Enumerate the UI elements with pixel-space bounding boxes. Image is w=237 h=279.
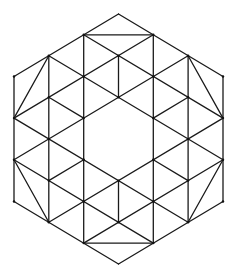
hexagon-lattice-diagram: [0, 0, 237, 279]
lattice-segment: [14, 56, 49, 118]
lattice-vertex: [187, 221, 189, 223]
lattice-vertex: [152, 75, 154, 77]
lattice-vertex: [48, 221, 50, 223]
lattice-vertex: [48, 179, 50, 181]
lattice-vertex: [83, 117, 85, 119]
lattice-segment: [49, 97, 84, 118]
lattice-vertex: [48, 96, 50, 98]
lattice-edges: [14, 14, 223, 264]
lattice-vertex: [117, 96, 119, 98]
lattice-segment: [188, 160, 223, 223]
lattice-vertex: [187, 179, 189, 181]
lattice-vertex: [13, 75, 15, 77]
lattice-vertex: [13, 159, 15, 161]
lattice-vertex: [152, 242, 154, 244]
lattice-vertex: [152, 159, 154, 161]
lattice-vertex: [48, 138, 50, 140]
lattice-vertex: [222, 75, 224, 77]
lattice-segment: [153, 97, 188, 118]
lattice-vertex: [13, 117, 15, 119]
lattice-segment: [14, 160, 49, 223]
lattice-segment: [49, 160, 84, 181]
lattice-vertex: [83, 242, 85, 244]
lattice-vertex: [117, 221, 119, 223]
lattice-segment: [153, 160, 188, 181]
lattice-vertex: [48, 55, 50, 57]
lattice-vertex: [187, 55, 189, 57]
lattice-vertex: [83, 75, 85, 77]
lattice-vertex: [152, 200, 154, 202]
lattice-vertex: [152, 117, 154, 119]
lattice-vertex: [222, 200, 224, 202]
lattice-vertex: [83, 34, 85, 36]
lattice-vertex: [222, 159, 224, 161]
lattice-vertex: [187, 96, 189, 98]
lattice-vertex: [222, 117, 224, 119]
lattice-vertex: [152, 34, 154, 36]
lattice-segment: [119, 202, 224, 265]
lattice-vertex: [83, 200, 85, 202]
lattice-vertex: [117, 55, 119, 57]
lattice-vertex: [117, 179, 119, 181]
lattice-vertex: [187, 138, 189, 140]
lattice-segment: [119, 14, 224, 77]
lattice-segment: [188, 56, 223, 118]
lattice-vertex: [13, 200, 15, 202]
lattice-vertex: [83, 159, 85, 161]
lattice-segment: [14, 14, 119, 77]
lattice-segment: [14, 202, 119, 265]
